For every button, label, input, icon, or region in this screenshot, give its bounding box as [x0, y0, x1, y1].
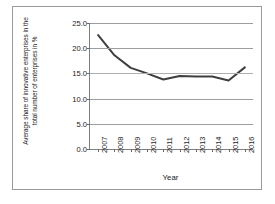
- y-axis-tick-label: 5.0: [57, 119, 87, 128]
- x-axis-tick-label: 2016: [247, 137, 256, 153]
- x-axis-tick-label: 2009: [133, 137, 142, 153]
- x-axis-tick-label: 2015: [231, 137, 240, 153]
- y-axis-tick-labels: 0.05.010.015.020.025.0: [57, 7, 87, 191]
- x-axis-tick-label: 2012: [182, 137, 191, 153]
- x-axis-tickmark: [98, 149, 99, 152]
- x-axis-tick-label: 2011: [165, 137, 174, 153]
- y-axis-title: Average share of innovative enterprises …: [13, 16, 49, 146]
- y-axis-tickmark: [87, 48, 90, 49]
- x-axis-tickmark: [180, 149, 181, 152]
- x-axis-tickmark: [147, 149, 148, 152]
- gridline: [90, 23, 253, 24]
- x-axis-tickmark: [131, 149, 132, 152]
- y-axis-tick-label: 25.0: [57, 19, 87, 28]
- x-axis-tick-label: 2008: [116, 137, 125, 153]
- y-axis-tickmark: [87, 124, 90, 125]
- y-axis-tickmark: [87, 73, 90, 74]
- y-axis-tick-label: 20.0: [57, 44, 87, 53]
- y-axis-tickmark: [87, 23, 90, 24]
- chart-figure: Average share of innovative enterprises …: [12, 6, 262, 190]
- y-axis-tickmark: [87, 149, 90, 150]
- x-axis-tick-label: 2013: [198, 137, 207, 153]
- gridline: [90, 99, 253, 100]
- y-axis-tick-label: 0.0: [57, 145, 87, 154]
- y-axis-tick-label: 10.0: [57, 94, 87, 103]
- gridline: [90, 124, 253, 125]
- gridline: [90, 73, 253, 74]
- x-axis-tickmark: [196, 149, 197, 152]
- x-axis-tick-label: 2010: [149, 137, 158, 153]
- y-axis-tickmark: [87, 99, 90, 100]
- x-axis-tick-label: 2007: [100, 137, 109, 153]
- y-axis-tick-label: 15.0: [57, 69, 87, 78]
- x-axis-title: Year: [89, 173, 252, 182]
- x-axis-tick-label: 2014: [214, 137, 223, 153]
- gridline: [90, 48, 253, 49]
- x-axis-tickmark: [245, 149, 246, 152]
- plot-area: [89, 23, 253, 149]
- data-series-line: [90, 23, 253, 149]
- x-axis-tickmark: [229, 149, 230, 152]
